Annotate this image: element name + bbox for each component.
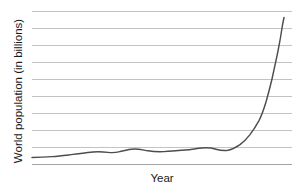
plot-area: [32, 8, 292, 166]
y-axis-label: World population (in billions): [9, 8, 27, 174]
population-chart-figure: World population (in billions) Year: [0, 0, 302, 196]
x-axis-label: Year: [32, 172, 292, 185]
plot-svg: [32, 8, 292, 166]
gridlines-group: [32, 11, 292, 164]
population-curve: [32, 18, 284, 158]
